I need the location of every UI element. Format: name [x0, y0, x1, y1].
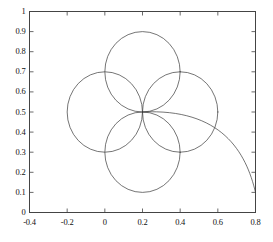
x-tick-label-2: 0	[91, 217, 119, 227]
y-tick-label-7: 0.7	[15, 66, 25, 76]
y-tick-label-1: 0.1	[15, 187, 25, 197]
x-tick-label-1: -0.2	[53, 217, 81, 227]
y-tick-label-0: 0	[21, 207, 25, 217]
curve-loop-lower	[105, 112, 180, 192]
y-tick-label-5: 0.5	[15, 107, 25, 117]
x-tick-label-6: 0.8	[242, 217, 270, 227]
y-tick-label-2: 0.2	[15, 167, 25, 177]
x-tick-label-4: 0.4	[166, 217, 194, 227]
data-curves	[67, 32, 255, 193]
y-tick-label-3: 0.3	[15, 147, 25, 157]
y-tick-label-8: 0.8	[15, 46, 25, 56]
y-tick-label-4: 0.4	[15, 127, 25, 137]
y-tick-label-10: 1	[21, 6, 25, 16]
curve-loop-upper	[105, 32, 180, 112]
y-tick-label-6: 0.6	[15, 86, 25, 96]
curve-loop-upper-left	[67, 72, 142, 152]
x-tick-label-3: 0.2	[129, 217, 157, 227]
x-tick-label-5: 0.6	[204, 217, 232, 227]
curve-escape-tail	[143, 112, 256, 193]
x-tick-label-0: -0.4	[16, 217, 44, 227]
plot-canvas	[0, 0, 273, 242]
figure: 00.10.20.30.40.50.60.70.80.91 -0.4-0.200…	[0, 0, 273, 242]
y-tick-label-9: 0.9	[15, 26, 25, 36]
